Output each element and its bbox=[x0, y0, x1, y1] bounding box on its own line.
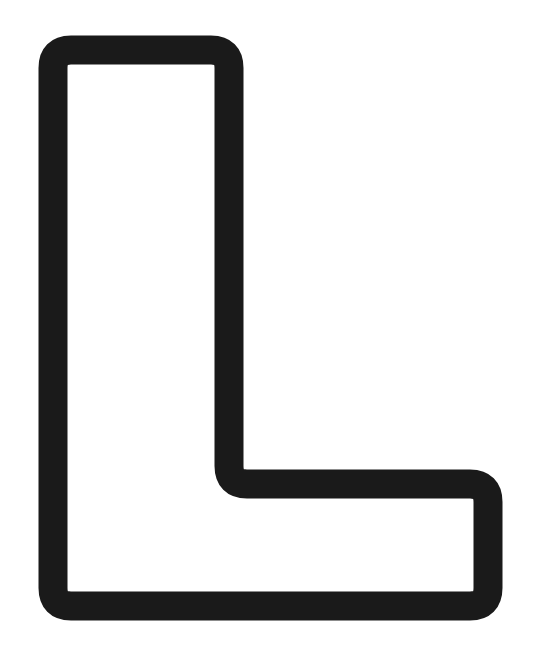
letter-l-outline-icon bbox=[0, 0, 540, 662]
letter-l-outline bbox=[53, 50, 488, 606]
